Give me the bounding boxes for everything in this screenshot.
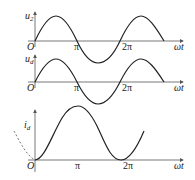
- plot-id: id O π 2π ωt: [14, 106, 184, 172]
- ud-curve: [35, 59, 164, 104]
- x-axis-label: ωt: [174, 160, 184, 171]
- ud-label: ud: [25, 53, 34, 66]
- tick-pi: π: [74, 82, 79, 93]
- tick-pi: π: [74, 41, 79, 52]
- x-axis-label: ωt: [174, 82, 184, 93]
- tick-2pi: 2π: [123, 160, 133, 171]
- tick-pi: π: [75, 160, 80, 171]
- tick-2pi: 2π: [122, 82, 132, 93]
- origin-label: O: [27, 82, 34, 93]
- id-dashed-curve: [14, 131, 35, 160]
- origin-label: O: [27, 160, 34, 171]
- tick-2pi: 2π: [122, 41, 132, 52]
- plot-u2: u2 O π 2π ωt: [25, 10, 184, 63]
- u2-curve: [35, 16, 164, 63]
- waveform-diagram: u2 O π 2π ωt ud O π 2π ωt id O π 2π ωt: [0, 0, 195, 180]
- u2-label: u2: [25, 10, 34, 23]
- x-axis-label: ωt: [174, 41, 184, 52]
- id-label: id: [24, 119, 31, 132]
- origin-label: O: [27, 41, 34, 52]
- id-curve: [35, 106, 144, 160]
